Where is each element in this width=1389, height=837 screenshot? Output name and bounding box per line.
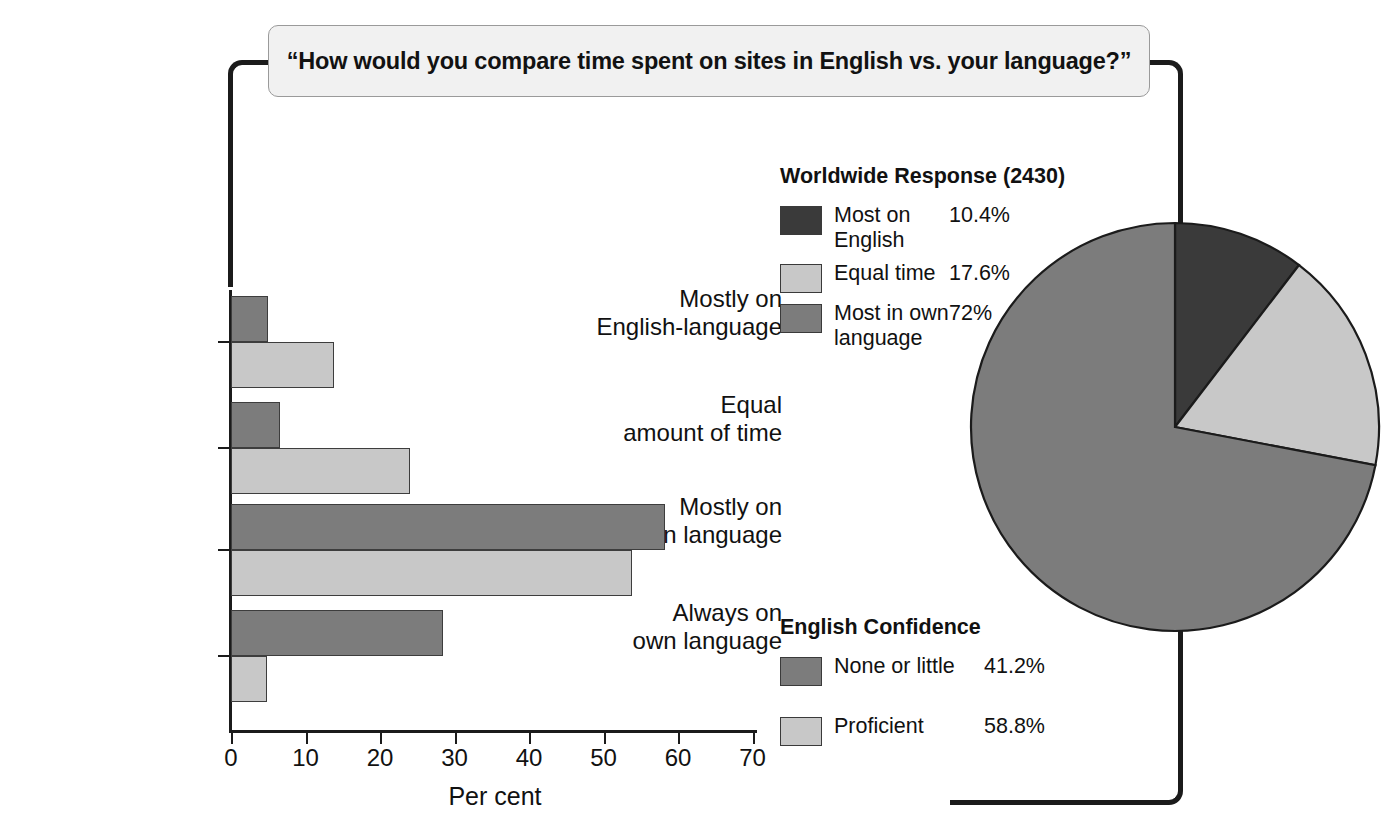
x-tick-mark bbox=[380, 733, 382, 744]
legend-label-line: Most in own bbox=[834, 301, 949, 326]
x-tick-label: 60 bbox=[665, 744, 692, 772]
x-tick-label: 50 bbox=[590, 744, 617, 772]
category-label-line: Mostly on bbox=[585, 285, 782, 313]
category-label: Always onown language bbox=[585, 599, 800, 656]
legend-swatch bbox=[780, 264, 822, 293]
legend-label-line: Most on bbox=[834, 203, 949, 228]
legend-swatch bbox=[780, 717, 822, 746]
x-tick-mark bbox=[753, 733, 755, 744]
legend-worldwide-response: Worldwide Response (2430) Most onEnglish… bbox=[780, 164, 1070, 359]
category-label-line: own language bbox=[585, 627, 782, 655]
x-tick-mark bbox=[231, 733, 233, 744]
bar bbox=[231, 448, 410, 494]
bar bbox=[231, 402, 280, 448]
legend-label-line: language bbox=[834, 326, 949, 351]
bar bbox=[231, 656, 267, 702]
legend-swatch bbox=[780, 657, 822, 686]
bar bbox=[231, 504, 665, 550]
x-tick-label: 40 bbox=[516, 744, 543, 772]
legend-english-confidence: English Confidence None or little41.2%Pr… bbox=[780, 615, 1090, 774]
category-label: Mostly onEnglish-language bbox=[585, 285, 800, 342]
legend-label: None or little bbox=[834, 654, 984, 679]
bar-chart: 010203040506070 Mostly onEnglish-languag… bbox=[0, 282, 800, 802]
legend-row: Most onEnglish10.4% bbox=[780, 203, 1070, 253]
bar bbox=[231, 610, 443, 656]
category-tick bbox=[218, 655, 232, 657]
legend-worldwide-title: Worldwide Response (2430) bbox=[780, 164, 1070, 189]
legend-value: 41.2% bbox=[984, 654, 1045, 679]
x-tick-label: 30 bbox=[441, 744, 468, 772]
legend-value: 10.4% bbox=[949, 203, 1010, 228]
legend-swatch bbox=[780, 304, 822, 333]
question-text: “How would you compare time spent on sit… bbox=[287, 48, 1132, 75]
legend-confidence-title: English Confidence bbox=[780, 615, 1090, 640]
legend-row: Equal time17.6% bbox=[780, 261, 1070, 293]
legend-label: Equal time bbox=[834, 261, 949, 286]
legend-label: Proficient bbox=[834, 714, 984, 739]
category-label: Equalamount of time bbox=[585, 391, 800, 448]
category-tick bbox=[218, 549, 232, 551]
legend-row: Most in ownlanguage72% bbox=[780, 301, 1070, 351]
x-tick-mark bbox=[455, 733, 457, 744]
figure-root: “How would you compare time spent on sit… bbox=[0, 0, 1389, 837]
legend-confidence-rows: None or little41.2%Proficient58.8% bbox=[780, 654, 1090, 746]
legend-row: Proficient58.8% bbox=[780, 714, 1090, 746]
legend-label-line: English bbox=[834, 228, 949, 253]
category-tick bbox=[218, 447, 232, 449]
x-tick-label: 70 bbox=[739, 744, 766, 772]
category-label-line: Always on bbox=[585, 599, 782, 627]
category-label-line: Equal bbox=[585, 391, 782, 419]
x-tick-mark bbox=[306, 733, 308, 744]
bar bbox=[231, 550, 632, 596]
legend-value: 72% bbox=[949, 301, 992, 326]
legend-swatch bbox=[780, 206, 822, 235]
bar bbox=[231, 296, 268, 342]
x-tick-mark bbox=[678, 733, 680, 744]
bar bbox=[231, 342, 334, 388]
category-label-line: English-language bbox=[585, 313, 782, 341]
x-tick-label: 20 bbox=[367, 744, 394, 772]
category-label-line: amount of time bbox=[585, 419, 782, 447]
legend-value: 58.8% bbox=[984, 714, 1045, 739]
x-tick-label: 10 bbox=[292, 744, 319, 772]
legend-worldwide-rows: Most onEnglish10.4%Equal time17.6%Most i… bbox=[780, 203, 1070, 351]
legend-row: None or little41.2% bbox=[780, 654, 1090, 686]
x-tick-label: 0 bbox=[224, 744, 237, 772]
legend-value: 17.6% bbox=[949, 261, 1010, 286]
question-callout-box: “How would you compare time spent on sit… bbox=[268, 25, 1150, 97]
category-tick bbox=[218, 341, 232, 343]
bar-chart-x-axis-title: Per cent bbox=[448, 782, 541, 811]
legend-label: Most onEnglish bbox=[834, 203, 949, 253]
x-tick-mark bbox=[529, 733, 531, 744]
legend-label: Most in ownlanguage bbox=[834, 301, 949, 351]
x-tick-mark bbox=[604, 733, 606, 744]
